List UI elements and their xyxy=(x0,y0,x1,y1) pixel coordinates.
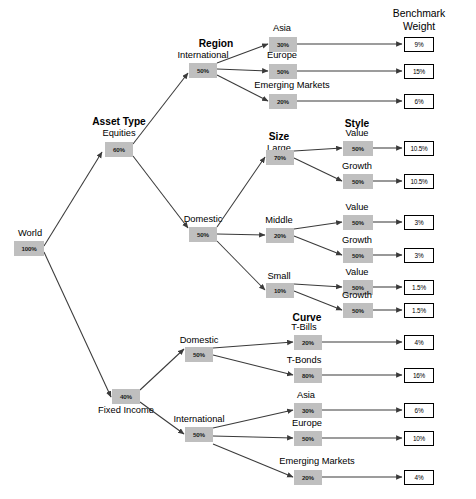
node-equities-intl-europe[interactable]: 50% xyxy=(269,64,297,79)
benchmark-weight-small-value: 1.5% xyxy=(404,280,434,295)
node-fi-international[interactable]: 50% xyxy=(185,427,213,442)
benchmark-weight-equities-intl-asia: 9% xyxy=(404,37,434,52)
node-label-large-growth: Growth xyxy=(326,161,388,172)
node-fi-emerging[interactable]: 20% xyxy=(294,470,322,485)
node-large-growth[interactable]: 50% xyxy=(343,174,373,189)
benchmark-weight-fi-emerging: 4% xyxy=(404,470,434,485)
node-label-middle-value: Value xyxy=(328,202,386,213)
node-label-tbonds: T-Bonds xyxy=(272,355,336,366)
node-tbonds[interactable]: 80% xyxy=(294,368,322,383)
node-label-small-growth: Growth xyxy=(326,290,388,301)
node-small[interactable]: 10% xyxy=(266,283,294,298)
benchmark-weight-middle-growth: 3% xyxy=(404,248,434,263)
node-label-fi-emerging: Emerging Markets xyxy=(262,456,372,467)
node-equities-intl-emerging[interactable]: 20% xyxy=(269,94,297,109)
node-label-equities-domestic: Domestic xyxy=(168,214,238,225)
node-label-fixed-income: Fixed Income xyxy=(88,405,164,416)
benchmark-weight-large-value: 10.5% xyxy=(404,141,434,156)
node-equities-international[interactable]: 50% xyxy=(189,63,217,78)
benchmark-weight-equities-intl-emerging: 6% xyxy=(404,94,434,109)
benchmark-weight-fi-asia: 6% xyxy=(404,403,434,418)
node-fixed-income[interactable]: 40% xyxy=(112,389,140,404)
section-header-asset-type: Asset Type xyxy=(74,116,164,127)
node-large-value[interactable]: 50% xyxy=(343,141,373,156)
node-label-equities: Equities xyxy=(81,128,157,139)
node-equities[interactable]: 60% xyxy=(105,142,133,157)
node-large[interactable]: 70% xyxy=(266,150,294,165)
section-header-region: Region xyxy=(174,38,258,49)
node-label-fi-asia: Asia xyxy=(277,390,335,401)
node-label-small-value: Value xyxy=(328,267,386,278)
benchmark-weight-middle-value: 3% xyxy=(404,215,434,230)
node-label-world: World xyxy=(2,228,58,239)
benchmark-weight-fi-europe: 10% xyxy=(404,431,434,446)
benchmark-weight-header: Benchmark Weight xyxy=(378,8,460,33)
node-label-fi-domestic: Domestic xyxy=(164,335,234,346)
node-fi-europe[interactable]: 50% xyxy=(294,431,322,446)
node-label-middle-growth: Growth xyxy=(326,235,388,246)
benchmark-weight-tbonds: 16% xyxy=(404,368,434,383)
node-label-equities-international: International xyxy=(158,50,248,61)
node-label-equities-intl-europe: Europe xyxy=(250,50,314,61)
node-middle-value[interactable]: 50% xyxy=(343,215,373,230)
benchmark-weight-equities-intl-europe: 15% xyxy=(404,64,434,79)
node-tbills[interactable]: 20% xyxy=(294,335,322,350)
node-fi-asia[interactable]: 30% xyxy=(294,403,322,418)
benchmark-weight-large-growth: 10.5% xyxy=(404,174,434,189)
node-label-tbills: T-Bills xyxy=(274,322,334,333)
section-header-size: Size xyxy=(248,131,310,142)
node-label-equities-intl-emerging: Emerging Markets xyxy=(237,80,347,91)
node-label-middle: Middle xyxy=(248,215,310,226)
benchmark-weight-small-growth: 1.5% xyxy=(404,303,434,318)
node-world[interactable]: 100% xyxy=(14,241,44,256)
node-equities-domestic[interactable]: 50% xyxy=(189,227,217,242)
benchmark-weight-header-line2: Weight xyxy=(403,21,435,32)
benchmark-weight-tbills: 4% xyxy=(404,335,434,350)
node-middle[interactable]: 20% xyxy=(266,228,294,243)
node-label-small: Small xyxy=(250,271,308,282)
node-small-growth[interactable]: 50% xyxy=(343,303,373,318)
benchmark-weight-header-line1: Benchmark xyxy=(393,8,446,19)
node-middle-growth[interactable]: 50% xyxy=(343,248,373,263)
allocation-tree-diagram: Region Asset Type Size Style Curve Bench… xyxy=(0,0,476,499)
node-fi-domestic[interactable]: 50% xyxy=(185,347,213,362)
node-label-fi-europe: Europe xyxy=(275,418,339,429)
node-label-equities-intl-asia: Asia xyxy=(252,23,312,34)
node-label-fi-international: International xyxy=(154,414,244,425)
node-label-large-value: Value xyxy=(328,128,386,139)
